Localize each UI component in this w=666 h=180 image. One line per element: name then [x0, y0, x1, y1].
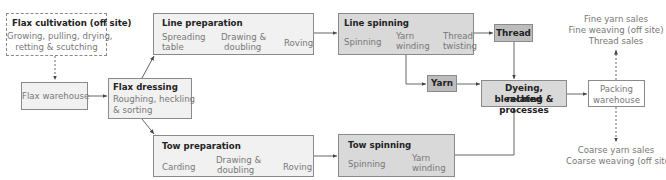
- line-prep-step-drawing-2: doubling: [224, 42, 261, 52]
- flax-cultivation-box: Flax cultivation (off site) Growing, pul…: [6, 13, 107, 56]
- tow-spinning-title: Tow spinning: [348, 140, 411, 150]
- flax-dressing-line2: & sorting: [113, 105, 152, 115]
- yarn-label: Yarn: [428, 78, 456, 89]
- line-spinning-box: Line spinning Spinning Yarn winding Thre…: [338, 13, 474, 55]
- flax-dressing-line1: Roughing, heckling: [113, 94, 195, 104]
- flax-cultivation-line2: retting & scutching: [7, 42, 106, 52]
- line-preparation-box: Line preparation Spreading table Drawing…: [153, 13, 314, 55]
- tow-prep-step-drawing-1: Drawing &: [216, 155, 261, 165]
- flax-cultivation-title: Flax cultivation (off site): [12, 18, 132, 28]
- packing-warehouse-box: Packing warehouse: [588, 80, 645, 107]
- tow-spin-step-spinning: Spinning: [348, 159, 385, 169]
- coarse-output-yarn-sales: Coarse yarn sales: [566, 145, 666, 156]
- dyeing-line2: related processes: [482, 94, 566, 116]
- line-spin-step-thread-1: Thread: [443, 31, 473, 41]
- tow-preparation-title: Tow preparation: [162, 141, 241, 151]
- tow-prep-step-carding: Carding: [162, 162, 195, 172]
- tow-preparation-box: Tow preparation Carding Drawing & doubli…: [153, 135, 314, 177]
- fine-output-thread-sales: Thread sales: [566, 36, 666, 47]
- line-spinning-title: Line spinning: [344, 18, 409, 28]
- line-spin-step-thread-2: twisting: [443, 41, 477, 51]
- line-spin-step-spinning: Spinning: [344, 37, 381, 47]
- line-spin-step-yarn-2: winding: [396, 41, 430, 51]
- flax-warehouse-box: Flax warehouse: [21, 82, 88, 110]
- line-spin-step-yarn-1: Yarn: [396, 31, 414, 41]
- fine-output-weaving: Fine weaving (off site): [566, 25, 666, 36]
- packing-warehouse-line2: warehouse: [589, 95, 644, 105]
- thread-box: Thread: [494, 24, 533, 42]
- line-prep-step-spreading-2: table: [162, 42, 184, 52]
- line-prep-step-roving: Roving: [284, 38, 313, 48]
- line-prep-step-spreading-1: Spreading: [162, 32, 206, 42]
- tow-spin-step-yarn-2: winding: [412, 163, 446, 173]
- flax-cultivation-line1: Growing, pulling, drying,: [7, 31, 106, 41]
- thread-label: Thread: [495, 28, 532, 39]
- tow-spinning-box: Tow spinning Spinning Yarn winding: [338, 134, 455, 177]
- dyeing-box: Dyeing, bleaching & related processes: [481, 80, 567, 107]
- packing-warehouse-line1: Packing: [589, 84, 644, 94]
- tow-spin-step-yarn-1: Yarn: [412, 153, 430, 163]
- fine-output-yarn-sales: Fine yarn sales: [566, 14, 666, 25]
- tow-prep-step-drawing-2: doubling: [217, 165, 254, 175]
- yarn-box: Yarn: [427, 75, 457, 92]
- flax-dressing-title: Flax dressing: [113, 82, 178, 92]
- line-prep-step-drawing-1: Drawing &: [221, 32, 266, 42]
- line-preparation-title: Line preparation: [162, 18, 243, 28]
- coarse-output-weaving: Coarse weaving (off site): [566, 156, 666, 167]
- tow-prep-step-roving: Roving: [283, 162, 312, 172]
- flax-warehouse-label: Flax warehouse: [22, 91, 87, 101]
- flax-dressing-box: Flax dressing Roughing, heckling & sorti…: [108, 78, 192, 119]
